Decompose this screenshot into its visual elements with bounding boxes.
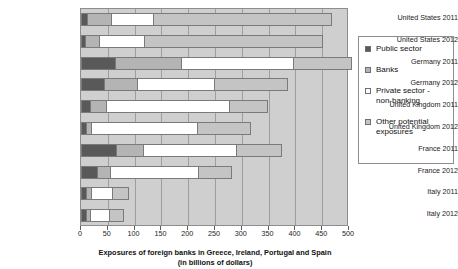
bar-segment-private-sector[interactable]	[137, 78, 214, 91]
x-axis-title: Exposures of foreign banks in Greece, Ir…	[40, 248, 390, 268]
bar-segment-public-sector[interactable]	[81, 57, 115, 70]
bar-row	[81, 9, 349, 31]
bar-row	[81, 96, 349, 118]
bar-segment-public-sector[interactable]	[81, 144, 116, 157]
bar-segment-public-sector[interactable]	[81, 166, 97, 179]
plot-area	[80, 8, 348, 226]
bar-segment-banks[interactable]	[115, 57, 181, 70]
category-label: France 2011	[380, 145, 458, 152]
bar-segment-private-sector[interactable]	[181, 57, 293, 70]
other-exposures-swatch	[365, 119, 371, 125]
category-label: Germany 2011	[380, 58, 458, 65]
bar-segment-private-sector[interactable]	[90, 209, 110, 222]
x-axis-title-line-1: Exposures of foreign banks in Greece, Ir…	[40, 248, 390, 258]
bar-segment-private-sector[interactable]	[91, 187, 112, 200]
bar-row	[81, 140, 349, 162]
private-sector-swatch	[365, 88, 371, 94]
x-tick-label: 300	[235, 230, 247, 237]
bar-segment-banks[interactable]	[90, 100, 106, 113]
x-axis: 050100150200250300350400450500	[80, 226, 348, 231]
x-tick-label: 200	[181, 230, 193, 237]
bar-segment-public-sector[interactable]	[81, 100, 90, 113]
bar-segment-other-exposures[interactable]	[197, 122, 251, 135]
x-tick-label: 400	[288, 230, 300, 237]
x-tick-label: 0	[78, 230, 82, 237]
bar-segment-other-exposures[interactable]	[198, 166, 232, 179]
bar-segment-banks[interactable]	[85, 35, 99, 48]
bar-segment-other-exposures[interactable]	[214, 78, 289, 91]
bar-row	[81, 53, 349, 75]
x-tick-label: 350	[262, 230, 274, 237]
legend-label: Banks	[376, 65, 398, 75]
x-tick-label: 150	[154, 230, 166, 237]
bar-segment-other-exposures[interactable]	[229, 100, 268, 113]
x-tick-label: 250	[208, 230, 220, 237]
category-label: United Kingdom 2011	[380, 101, 458, 108]
category-label: Italy 2012	[380, 210, 458, 217]
bar-row	[81, 118, 349, 140]
stacked-bar[interactable]	[81, 100, 268, 113]
legend-item[interactable]: Banks	[365, 65, 448, 75]
stacked-bar[interactable]	[81, 57, 352, 70]
stacked-bar[interactable]	[81, 13, 332, 26]
stacked-bar[interactable]	[81, 122, 251, 135]
x-axis-title-line-2: (in billions of dollars)	[40, 258, 390, 268]
bar-segment-private-sector[interactable]	[111, 13, 153, 26]
bar-segment-private-sector[interactable]	[106, 100, 229, 113]
bar-segment-other-exposures[interactable]	[153, 13, 332, 26]
category-label: United States 2011	[380, 14, 458, 21]
stacked-bar[interactable]	[81, 166, 232, 179]
x-tick-label: 50	[103, 230, 111, 237]
stacked-bar[interactable]	[81, 209, 124, 222]
banks-swatch	[365, 67, 371, 73]
bar-segment-other-exposures[interactable]	[236, 144, 282, 157]
bar-segment-public-sector[interactable]	[81, 78, 104, 91]
bar-row	[81, 205, 349, 227]
bar-segment-other-exposures[interactable]	[109, 209, 123, 222]
bar-segment-private-sector[interactable]	[91, 122, 197, 135]
stacked-bar[interactable]	[81, 35, 323, 48]
bar-segment-banks[interactable]	[97, 166, 111, 179]
x-tick-label: 500	[342, 230, 354, 237]
bar-segment-private-sector[interactable]	[143, 144, 236, 157]
category-label: United States 2012	[380, 36, 458, 43]
bar-row	[81, 31, 349, 53]
horizontal-stacked-bar-chart: 050100150200250300350400450500 Exposures…	[0, 0, 458, 269]
bar-segment-banks[interactable]	[116, 144, 143, 157]
public-sector-swatch	[365, 46, 371, 52]
category-label: United Kingdom 2012	[380, 123, 458, 130]
bar-segment-banks[interactable]	[104, 78, 138, 91]
bar-segment-private-sector[interactable]	[99, 35, 144, 48]
category-label: France 2012	[380, 167, 458, 174]
bar-segment-banks[interactable]	[87, 13, 111, 26]
bar-row	[81, 162, 349, 184]
bar-row	[81, 74, 349, 96]
x-tick-label: 450	[315, 230, 327, 237]
stacked-bar[interactable]	[81, 78, 288, 91]
legend-item[interactable]: Public sector	[365, 44, 448, 54]
bar-segment-other-exposures[interactable]	[144, 35, 323, 48]
bar-segment-other-exposures[interactable]	[112, 187, 129, 200]
category-label: Italy 2011	[380, 188, 458, 195]
stacked-bar[interactable]	[81, 144, 282, 157]
bar-segment-other-exposures[interactable]	[293, 57, 351, 70]
bar-segment-private-sector[interactable]	[110, 166, 198, 179]
legend-label: Public sector	[376, 44, 422, 54]
category-label: Germany 2012	[380, 79, 458, 86]
bar-row	[81, 183, 349, 205]
x-tick-label: 100	[128, 230, 140, 237]
stacked-bar[interactable]	[81, 187, 129, 200]
